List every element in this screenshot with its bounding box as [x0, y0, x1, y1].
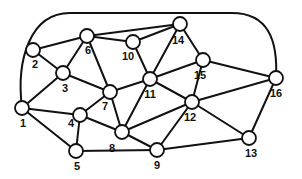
node-label-8: 8	[109, 142, 115, 154]
node-label-14: 14	[172, 34, 185, 46]
node-3	[56, 66, 70, 80]
edge-12-13	[192, 102, 249, 138]
node-16	[269, 71, 283, 85]
node-label-11: 11	[144, 88, 156, 100]
node-8	[115, 125, 129, 139]
node-9	[150, 143, 164, 157]
edge-1-3	[22, 73, 63, 108]
node-11	[143, 72, 157, 86]
node-2	[26, 43, 40, 57]
node-12	[185, 95, 199, 109]
node-label-16: 16	[270, 87, 282, 99]
node-5	[69, 144, 83, 158]
edge-12-16	[192, 78, 276, 102]
node-7	[103, 85, 117, 99]
node-13	[242, 131, 256, 145]
node-label-3: 3	[62, 82, 68, 94]
edge-9-13	[157, 138, 249, 150]
node-1	[15, 101, 29, 115]
node-label-2: 2	[32, 58, 38, 70]
node-6	[80, 29, 94, 43]
edge-5-9	[76, 150, 157, 151]
node-label-9: 9	[154, 159, 160, 171]
node-label-13: 13	[245, 147, 257, 159]
node-label-5: 5	[74, 160, 80, 172]
node-4	[73, 108, 87, 122]
edge-15-16	[203, 60, 276, 78]
node-label-12: 12	[184, 111, 196, 123]
node-label-1: 1	[20, 117, 26, 129]
node-10	[126, 35, 140, 49]
node-15	[196, 53, 210, 67]
node-14	[173, 17, 187, 31]
node-label-4: 4	[68, 117, 75, 129]
node-label-15: 15	[194, 69, 206, 81]
node-label-10: 10	[122, 50, 134, 62]
node-label-7: 7	[102, 100, 108, 112]
graph-diagram: 12345678910111213141516	[0, 0, 302, 179]
node-label-6: 6	[85, 44, 91, 56]
